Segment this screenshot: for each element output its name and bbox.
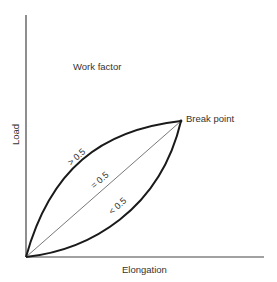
curve-label-equal: = 0.5 bbox=[89, 170, 111, 191]
work-factor-diagram: Work factor Break point Elongation Load … bbox=[0, 0, 277, 282]
line-equal-half bbox=[26, 121, 181, 257]
break-point-marker bbox=[180, 120, 183, 123]
break-point-label: Break point bbox=[186, 113, 234, 124]
curve-label-less: < 0.5 bbox=[107, 195, 129, 216]
x-axis-label: Elongation bbox=[122, 264, 167, 275]
y-axis-label: Load bbox=[10, 124, 21, 145]
diagram-title: Work factor bbox=[73, 61, 121, 72]
